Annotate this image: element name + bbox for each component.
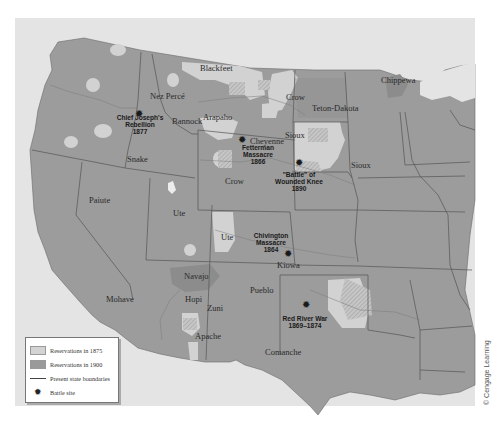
battle-label: Rebellion — [125, 121, 155, 128]
battle-label: Wounded Knee — [275, 178, 323, 185]
battle-site-icon: ✹ — [302, 299, 310, 310]
battle-label: 1866 — [251, 158, 266, 165]
legend-item-battle: ✹ Battle site — [30, 385, 114, 399]
battle-label: "Battle" of — [283, 171, 316, 178]
swatch-1875-icon — [30, 346, 46, 355]
tribe-label: Ute — [173, 208, 186, 218]
battle-label: Massacre — [243, 151, 273, 158]
copyright-credit: © Cengage Learning — [483, 340, 490, 405]
tribe-label: Zuni — [207, 303, 224, 313]
swatch-1900-icon — [30, 360, 46, 369]
tribe-label: Teton-Dakota — [312, 103, 359, 113]
map-legend: Reservations in 1875 Reservations in 190… — [25, 337, 119, 403]
battle-label: Fetterman — [242, 144, 274, 151]
tribe-label: Comanche — [265, 347, 302, 357]
legend-item-boundaries: Present state boundaries — [30, 371, 114, 385]
tribe-label: Mohave — [106, 294, 134, 304]
tribe-label: Pueblo — [250, 285, 274, 295]
tribe-label: Nez Percé — [150, 91, 185, 101]
tribe-label: Snake — [127, 154, 148, 164]
boundary-line-icon — [30, 378, 46, 379]
battle-site-icon: ✹ — [284, 248, 292, 259]
tribe-label: Hopi — [185, 294, 203, 304]
battle-label: Massacre — [256, 239, 286, 246]
legend-label: Reservations in 1875 — [50, 347, 102, 354]
tribe-label: Apache — [195, 331, 221, 341]
tribe-label: Kiowa — [277, 260, 300, 270]
battle-label: 1864 — [264, 246, 279, 253]
tribe-label: Arapaho — [203, 112, 232, 122]
legend-label: Battle site — [50, 389, 75, 396]
battle-label: 1869–1874 — [288, 322, 321, 329]
legend-label: Reservations in 1900 — [50, 361, 102, 368]
tribe-label: Sioux — [351, 160, 372, 170]
tribe-label: Navajo — [184, 271, 209, 281]
legend-label: Present state boundaries — [50, 375, 110, 382]
battle-label: 1890 — [292, 185, 307, 192]
battle-label: 1877 — [133, 128, 148, 135]
tribe-label: Blackfeet — [200, 63, 233, 73]
battle-site-icon: ✹ — [295, 157, 303, 168]
tribe-label: Sioux — [285, 130, 306, 140]
tribe-label: Chippewa — [381, 75, 416, 85]
legend-item-1875: Reservations in 1875 — [30, 343, 114, 357]
battle-label: Red River War — [283, 315, 328, 322]
legend-item-1900: Reservations in 1900 — [30, 357, 114, 371]
tribe-label: Ute — [221, 232, 234, 242]
tribe-label: Paiute — [89, 195, 110, 205]
battle-site-icon: ✹ — [30, 388, 46, 397]
tribe-label: Crow — [286, 92, 306, 102]
tribe-label: Crow — [225, 176, 245, 186]
tribe-label: Bannock — [172, 116, 203, 126]
